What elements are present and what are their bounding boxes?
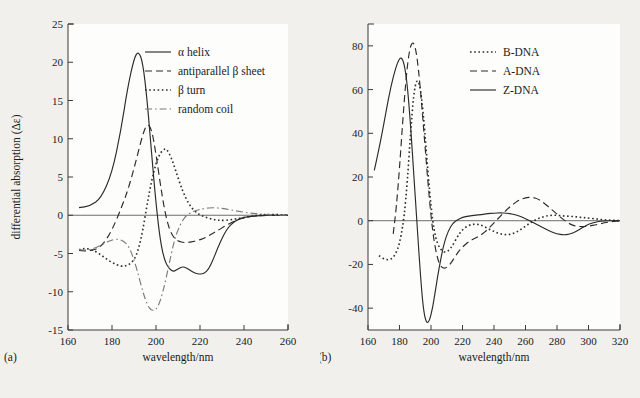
x-tick-label: 320 — [612, 335, 629, 347]
y-tick-label: 5 — [58, 171, 64, 183]
y-tick-label: 10 — [52, 133, 64, 145]
x-tick-label: 240 — [236, 335, 253, 347]
x-tick-label: 200 — [423, 335, 440, 347]
x-tick-label: 180 — [104, 335, 121, 347]
y-tick-label: 20 — [52, 56, 64, 68]
x-tick-label: 220 — [454, 335, 471, 347]
y-tick-label: -5 — [54, 248, 64, 260]
panel-b-chart: -40-200204060801601802002202402602803003… — [320, 0, 640, 398]
y-tick-label: -10 — [48, 286, 63, 298]
panel-label: (b) — [320, 351, 332, 364]
x-tick-label: 220 — [192, 335, 209, 347]
x-tick-label: 200 — [148, 335, 165, 347]
x-tick-label: 240 — [486, 335, 503, 347]
x-tick-label: 160 — [360, 335, 377, 347]
legend-label: α helix — [178, 46, 210, 58]
panel-label: (a) — [4, 351, 17, 364]
y-tick-label: 15 — [52, 95, 64, 107]
x-tick-label: 180 — [391, 335, 408, 347]
y-tick-label: -40 — [348, 302, 363, 314]
y-axis-label: differential absorption (Δε) — [10, 114, 23, 239]
y-tick-label: 20 — [352, 171, 364, 183]
x-axis-label: wavelength/nm — [459, 351, 530, 364]
legend-label: B-DNA — [503, 46, 540, 58]
plot-background — [368, 24, 620, 330]
cd-spectra-figure: -15-10-50510152025160180200220240260wave… — [0, 0, 640, 398]
legend-label: β turn — [178, 84, 206, 97]
x-tick-label: 260 — [280, 335, 297, 347]
legend-label: random coil — [178, 103, 233, 115]
legend-label: Z-DNA — [503, 84, 539, 96]
y-tick-label: 0 — [58, 209, 64, 221]
legend-label: antiparallel β sheet — [178, 65, 266, 78]
panel-a: -15-10-50510152025160180200220240260wave… — [0, 0, 320, 398]
y-tick-label: 40 — [352, 127, 364, 139]
x-axis-label: wavelength/nm — [143, 351, 214, 364]
y-tick-label: 0 — [358, 215, 364, 227]
y-tick-label: -20 — [348, 258, 363, 270]
y-tick-label: 60 — [352, 84, 364, 96]
y-tick-label: 80 — [352, 40, 364, 52]
x-tick-label: 160 — [60, 335, 77, 347]
x-tick-label: 280 — [549, 335, 566, 347]
legend-label: A-DNA — [503, 65, 541, 77]
panel-b: -40-200204060801601802002202402602803003… — [320, 0, 640, 398]
y-tick-label: 25 — [52, 18, 64, 30]
panel-a-chart: -15-10-50510152025160180200220240260wave… — [0, 0, 320, 398]
x-tick-label: 260 — [517, 335, 534, 347]
x-tick-label: 300 — [580, 335, 597, 347]
